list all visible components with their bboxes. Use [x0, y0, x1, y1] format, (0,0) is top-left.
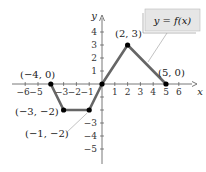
y-tick-label: 4	[91, 27, 97, 37]
x-tick-label: −2	[68, 87, 81, 97]
function-line	[51, 45, 166, 110]
point-labels: xy−6−5−3−2−11234564321−3−4−5(−4, 0)(−3, …	[15, 10, 203, 154]
function-polyline	[51, 45, 166, 110]
x-tick-label: 1	[112, 87, 118, 97]
data-points	[48, 42, 168, 112]
x-tick-label: 4	[150, 87, 156, 97]
point-label: (5, 0)	[158, 67, 185, 78]
data-point	[87, 107, 92, 112]
x-tick-label: 3	[138, 87, 144, 97]
x-tick-label: 6	[176, 87, 182, 97]
x-axis-label: x	[197, 86, 203, 97]
function-graph: y = f(x) xy−6−5−3−2−11234564321−3−4−5(−4…	[0, 0, 206, 172]
x-tick-label: −1	[81, 87, 94, 97]
point-label: (2, 3)	[115, 28, 142, 39]
legend-leader-line	[148, 33, 167, 62]
y-tick-label: −5	[84, 144, 98, 154]
data-point	[61, 107, 66, 112]
data-point	[48, 81, 53, 86]
x-tick-label: 5	[163, 87, 169, 97]
y-tick-label: −4	[84, 131, 98, 141]
data-point	[163, 81, 168, 86]
y-tick-label: 1	[91, 66, 97, 76]
x-tick-label: −6	[17, 87, 31, 97]
legend-label: y = f(x)	[153, 15, 192, 26]
point-label: (−3, −2)	[15, 106, 59, 117]
y-tick-label: 2	[91, 53, 97, 63]
x-tick-label: 2	[125, 87, 131, 97]
legend-box: y = f(x)	[143, 9, 200, 62]
y-axis-label: y	[90, 10, 97, 21]
data-point	[125, 42, 130, 47]
point-label: (−4, 0)	[20, 69, 55, 80]
x-tick-label: −5	[29, 87, 43, 97]
y-tick-label: −3	[84, 118, 98, 128]
y-tick-label: 3	[91, 40, 97, 50]
point-label: (−1, −2)	[25, 128, 69, 139]
x-tick-label: −3	[55, 87, 69, 97]
data-point	[99, 81, 104, 86]
